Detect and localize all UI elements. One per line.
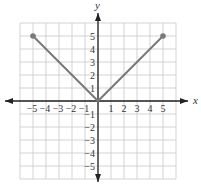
y-tick-label: −4	[84, 148, 95, 159]
y-tick-label: 5	[90, 31, 95, 42]
y-axis-bottom-arrow-icon	[95, 174, 101, 182]
y-tick-label: 4	[90, 44, 95, 55]
x-tick-label: −2	[66, 103, 77, 114]
endpoint-dot	[30, 33, 36, 39]
x-axis-right-arrow-icon	[180, 98, 188, 104]
x-axis-label: x	[192, 94, 198, 106]
y-tick-label: 2	[90, 70, 95, 81]
x-tick-label: 1	[109, 103, 114, 114]
graph-area: x y −5−4−3−2−112345−5−4−3−2−112345	[0, 0, 201, 187]
y-axis-label: y	[94, 0, 100, 11]
y-tick-label: −3	[84, 135, 95, 146]
y-tick-label: −2	[84, 122, 95, 133]
y-axis-top-arrow-icon	[95, 13, 101, 21]
x-tick-label: 2	[122, 103, 127, 114]
x-tick-label: 4	[148, 103, 153, 114]
x-tick-label: 3	[135, 103, 140, 114]
x-axis-left-arrow-icon	[5, 98, 13, 104]
x-tick-label: −4	[40, 103, 51, 114]
x-tick-label: −3	[53, 103, 64, 114]
y-tick-label: −5	[84, 161, 95, 172]
y-tick-label: −1	[84, 109, 95, 120]
x-tick-label: −5	[27, 103, 38, 114]
endpoint-dot	[160, 33, 166, 39]
x-tick-label: 5	[161, 103, 166, 114]
y-tick-label: 3	[90, 57, 95, 68]
axes: x y	[5, 0, 198, 182]
